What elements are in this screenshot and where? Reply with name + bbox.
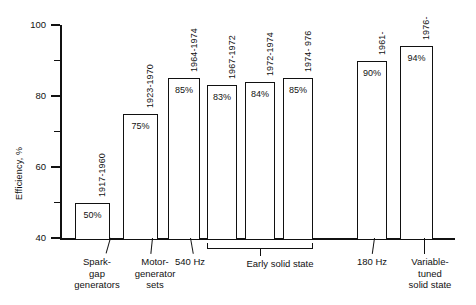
bar: [357, 61, 387, 240]
bar: [75, 203, 110, 240]
y-tick-major: [51, 166, 60, 167]
bar-year-label: 1967-1972: [227, 35, 237, 79]
bar: [168, 78, 200, 240]
bar: [400, 46, 433, 240]
category-label: Variable- tuned solid state: [372, 256, 476, 291]
bar-year-label: 1961-: [377, 31, 387, 55]
bar-year-label: 1974- 976: [303, 31, 313, 72]
bar: [207, 85, 237, 239]
category-leader-line: [190, 238, 194, 254]
bar-year-label: 1923-1970: [145, 64, 155, 108]
bar-year-label: 1976-: [421, 17, 431, 41]
y-tick-minor: [54, 131, 60, 132]
bar-year-label: 1964-1974: [189, 28, 199, 72]
bar-year-label: 1972-1974: [265, 32, 275, 76]
bar-value-label: 75%: [123, 121, 158, 131]
category-leader-line: [372, 238, 375, 254]
bar: [123, 114, 158, 240]
category-leader-line: [150, 238, 153, 254]
efficiency-bar-chart: Efficiency, %40608010050%1917-196075%192…: [0, 0, 476, 305]
bar-value-label: 84%: [245, 89, 275, 99]
y-tick-label: 80: [20, 90, 46, 101]
bar-year-label: 1917-1960: [97, 153, 107, 197]
y-axis-line: [60, 25, 62, 240]
bar-value-label: 94%: [400, 53, 433, 63]
y-tick-label: 60: [20, 161, 46, 172]
y-tick-label: 100: [20, 19, 46, 30]
y-tick-minor: [54, 60, 60, 61]
y-tick-label: 40: [20, 232, 46, 243]
bar: [245, 82, 275, 240]
category-leader-line: [424, 238, 425, 254]
bar-value-label: 90%: [357, 68, 387, 78]
bar: [283, 78, 313, 240]
y-tick-major: [51, 237, 60, 238]
y-tick-minor: [54, 202, 60, 203]
bar-value-label: 50%: [75, 210, 110, 220]
y-tick-major: [51, 24, 60, 25]
bar-value-label: 83%: [207, 92, 237, 102]
bar-value-label: 85%: [283, 85, 313, 95]
y-tick-major: [51, 95, 60, 96]
group-bracket-stem: [260, 249, 261, 256]
y-axis-title: Efficiency, %: [14, 147, 24, 200]
bar-value-label: 85%: [168, 85, 200, 95]
category-leader-line: [106, 238, 112, 254]
